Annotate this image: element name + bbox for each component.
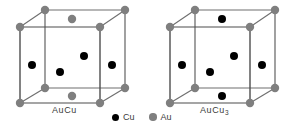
aucu-atom-au-corner-back-top-left (41, 6, 49, 14)
aucu3-atom-au-corner-back-top-right (271, 6, 279, 14)
aucu-edge-depth-top-left (20, 10, 45, 27)
aucu3-atom-cu-left-face-center (178, 61, 186, 69)
unit-cells-svg (0, 0, 299, 128)
aucu-atom-au-corner-front-top-right (96, 23, 104, 31)
cu-atom-icon (112, 114, 119, 121)
aucu3-atom-au-corner-front-bottom-right (246, 99, 254, 107)
aucu-edge-depth-top-right (100, 10, 125, 27)
aucu3-edge-depth-bottom-left (170, 88, 195, 103)
aucu-atom-au-corner-front-bottom-left (16, 99, 24, 107)
aucu3-atom-au-corner-back-bottom-left (191, 84, 199, 92)
label-aucu: AuCu (52, 105, 77, 115)
aucu-atom-cu-front-face-center (56, 68, 64, 76)
legend-label-au: Au (161, 112, 172, 122)
label-aucu3-subscript: 3 (225, 109, 229, 116)
label-aucu3-text: AuCu (200, 105, 225, 115)
aucu3-atom-cu-back-face-center (230, 52, 238, 60)
aucu3-atom-au-corner-back-bottom-right (271, 84, 279, 92)
aucu3-atom-cu-right-face-center (258, 61, 266, 69)
crystal-structure-figure: AuCu AuCu3 Cu Au (0, 0, 299, 128)
aucu-atom-cu-back-face-center (80, 52, 88, 60)
aucu3-edge-depth-top-right (250, 10, 275, 27)
aucu3-atom-au-corner-front-top-left (166, 23, 174, 31)
aucu-atom-au-corner-back-bottom-left (41, 84, 49, 92)
aucu-atom-au-corner-back-bottom-right (121, 84, 129, 92)
aucu3-edge-depth-top-left (170, 10, 195, 27)
aucu-atom-au-top-face-center (68, 15, 76, 23)
label-aucu3: AuCu3 (200, 105, 229, 115)
legend-label-cu: Cu (123, 112, 135, 122)
label-aucu-text: AuCu (52, 105, 77, 115)
aucu3-atom-cu-top-face-center (218, 15, 226, 23)
au-atom-icon (149, 113, 157, 121)
aucu-atom-au-corner-front-top-left (16, 23, 24, 31)
aucu-atom-au-corner-front-bottom-right (96, 99, 104, 107)
aucu-atom-au-corner-back-top-right (121, 6, 129, 14)
aucu-atom-cu-left-face-center (28, 61, 36, 69)
aucu-atom-cu-right-face-center (108, 61, 116, 69)
aucu-edge-depth-bottom-right (100, 88, 125, 103)
aucu-atom-au-bottom-face-center (68, 92, 76, 100)
legend-item-cu: Cu (112, 112, 135, 122)
aucu3-atom-au-corner-front-top-right (246, 23, 254, 31)
aucu3-atom-cu-bottom-face-center (218, 92, 226, 100)
aucu3-atom-cu-front-face-center (206, 68, 214, 76)
legend-item-au: Au (149, 112, 172, 122)
aucu-edge-depth-bottom-left (20, 88, 45, 103)
aucu3-atom-au-corner-back-top-left (191, 6, 199, 14)
aucu3-atom-au-corner-front-bottom-left (166, 99, 174, 107)
aucu3-edge-depth-bottom-right (250, 88, 275, 103)
